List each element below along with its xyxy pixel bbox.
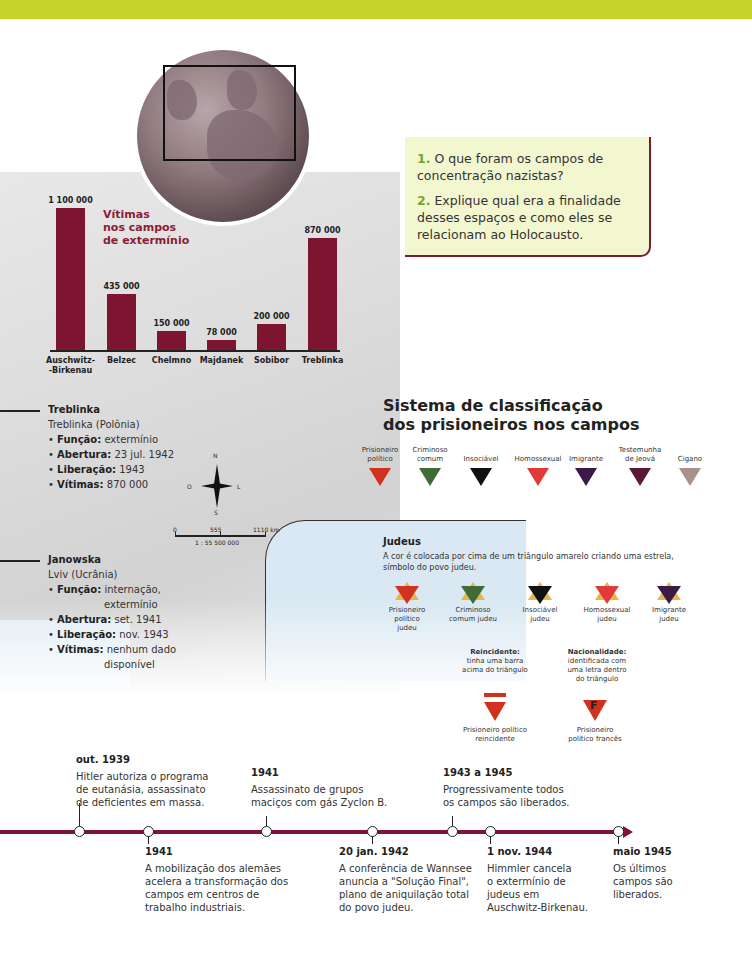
triangle-icon — [419, 468, 441, 486]
triangle-icon — [369, 468, 391, 486]
timeline-marker — [261, 826, 272, 837]
star-of-david-icon — [595, 582, 619, 604]
bar-auschwitz-birkenau — [56, 208, 85, 350]
camp-info-janowska: Janowska Lviv (Ucrânia) • Função: intern… — [48, 552, 176, 672]
triangle-badge: Prisioneiropolítico — [354, 446, 406, 486]
bar-value-label: 78 000 — [192, 328, 252, 337]
timeline-event: 1 nov. 1944Himmler cancelao extermínio d… — [487, 845, 588, 914]
bar-majdanek — [207, 340, 236, 350]
bar-value-label: 1 100 000 — [41, 196, 101, 205]
chart-axis — [50, 350, 340, 352]
classification-title: Sistema de classificação dos prisioneiro… — [383, 396, 639, 434]
star-badge: Insociáveljudeu — [508, 582, 572, 624]
bar-chelmno — [157, 331, 186, 350]
timeline-marker — [447, 826, 458, 837]
timeline-stem — [372, 836, 373, 844]
timeline-stem — [452, 816, 453, 826]
triangle-badge: Imigrante — [560, 446, 612, 486]
star-badge: Criminosocomum judeu — [441, 582, 505, 624]
star-of-david-icon — [657, 582, 681, 604]
camp-info-treblinka: Treblinka Treblinka (Polônia) • Função: … — [48, 402, 174, 492]
star-badge: Homossexualjudeu — [575, 582, 639, 624]
bar-treblinka — [308, 238, 337, 350]
timeline-event: maio 1945Os últimoscampos sãoliberados. — [613, 845, 673, 901]
triangle-icon — [527, 468, 549, 486]
triangle-icon — [629, 468, 651, 486]
triangle-badge: Homossexual — [512, 446, 564, 486]
leader-line-janowska — [0, 560, 40, 562]
triangle-badge: Testemunhade Jeová — [614, 446, 666, 486]
leader-line-treblinka — [0, 410, 40, 412]
timeline-event: 1943 a 1945Progressivamente todosos camp… — [443, 766, 570, 809]
bar-value-label: 150 000 — [142, 319, 202, 328]
question-1: 1. O que foram os campos de concentração… — [417, 150, 645, 184]
bar-value-label: 435 000 — [92, 282, 152, 291]
timeline-stem — [490, 836, 491, 844]
star-badge: Prisioneiropolíticojudeu — [375, 582, 439, 633]
star-of-david-icon — [528, 582, 552, 604]
timeline-event: out. 1939Hitler autoriza o programade eu… — [76, 753, 209, 809]
bar-sobibor — [257, 324, 286, 350]
question-2: 2. Explique qual era a finalidade desses… — [417, 192, 645, 243]
nacionalidade-note: Nacionalidade: identificada com uma letr… — [552, 648, 642, 684]
triangle-icon — [470, 468, 492, 486]
compass-rose-icon: N S O L — [195, 458, 235, 512]
timeline-marker — [74, 826, 85, 837]
question-box: 1. O que foram os campos de concentração… — [405, 137, 651, 257]
repeat-offender-bar-icon — [484, 693, 506, 697]
repeat-offender-triangle-icon — [484, 702, 506, 721]
triangle-icon — [575, 468, 597, 486]
star-badge: Imigrantejudeu — [637, 582, 701, 624]
timeline-event: 1941A mobilização dos alemãesacelera a t… — [145, 845, 288, 914]
timeline-stem — [148, 836, 149, 844]
globe-highlight-frame — [163, 65, 296, 161]
jews-section-description: A cor é colocada por cima de um triângul… — [383, 551, 683, 573]
bar-value-label: 870 000 — [293, 226, 353, 235]
bar-belzec — [107, 294, 136, 350]
timeline-arrow-icon — [623, 826, 633, 838]
timeline-event: 1941Assassinato de gruposmaciços com gás… — [251, 766, 387, 809]
star-of-david-icon — [461, 582, 485, 604]
reincidente-note: Reincidente: tinha uma barra acima do tr… — [450, 648, 540, 675]
triangle-badge: Insociável — [455, 446, 507, 486]
jews-section-title: Judeus — [383, 536, 421, 547]
top-color-band — [0, 0, 752, 19]
timeline-event: 20 jan. 1942A conferência de Wannseeanun… — [339, 845, 472, 914]
reincidente-caption: Prisioneiro político reincidente — [450, 726, 540, 744]
star-of-david-icon — [395, 582, 419, 604]
triangle-badge: Cigano — [664, 446, 716, 486]
timeline-line — [0, 830, 625, 834]
timeline-stem — [266, 816, 267, 826]
nacionalidade-caption: Prisioneiro político francês — [550, 726, 640, 744]
bar-category-label: Treblinka — [293, 356, 353, 366]
triangle-icon — [679, 468, 701, 486]
timeline-stem — [618, 836, 619, 844]
bar-value-label: 200 000 — [242, 312, 302, 321]
chart-title: Vítimas nos campos de extermínio — [103, 208, 189, 247]
triangle-badge: Criminosocomum — [404, 446, 456, 486]
